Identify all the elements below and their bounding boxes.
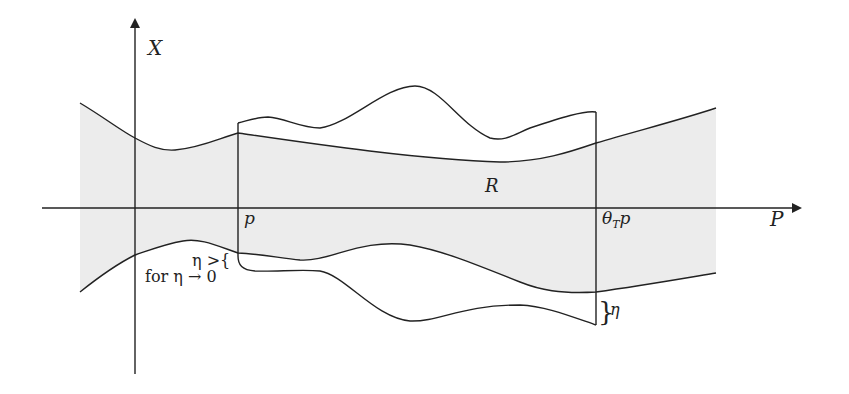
- shaded-region-band: [80, 103, 716, 293]
- eta-gap-right-label: η: [610, 300, 620, 319]
- p-axis-label: P: [769, 207, 784, 231]
- deformed-upper-boundary: [238, 86, 596, 139]
- eta-limit-label: for η → 0: [145, 267, 217, 286]
- phase-space-diagram: X P R p θTp η >{ for η → 0 } η: [0, 0, 849, 394]
- x-axis-label: X: [146, 36, 163, 60]
- p-marker-label: p: [244, 208, 255, 228]
- region-label: R: [484, 175, 499, 196]
